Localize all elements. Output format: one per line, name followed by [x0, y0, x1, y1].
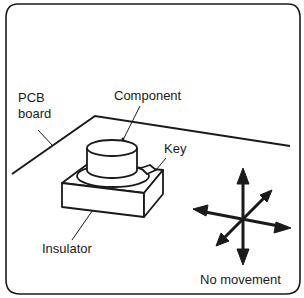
- pcb-leader-line: [38, 130, 53, 146]
- pcb-label-line1: PCB: [18, 90, 45, 105]
- insulator-label: Insulator: [42, 241, 93, 256]
- key-label: Key: [164, 141, 187, 156]
- key-leader-line: [156, 158, 166, 170]
- component-label: Component: [114, 88, 182, 103]
- no-movement-label: No movement: [200, 272, 281, 287]
- component-cylinder-top: [87, 140, 137, 156]
- movement-arrows-icon: [193, 168, 291, 265]
- diagram-canvas: PCB board Component Key Insulator No mov…: [0, 0, 304, 298]
- pcb-label-line2: board: [18, 106, 51, 121]
- component-assembly: [62, 140, 163, 217]
